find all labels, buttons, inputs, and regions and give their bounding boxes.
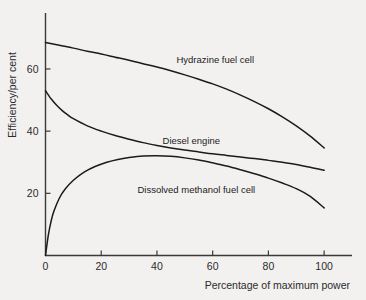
- y-axis-tick-label: 40: [27, 125, 39, 137]
- x-axis-tick-label: 0: [43, 260, 49, 272]
- y-axis-tick-label: 20: [27, 187, 39, 199]
- series-curve-3: [46, 156, 325, 256]
- y-axis-tick-label: 60: [27, 63, 39, 75]
- series-label-3: Dissolved methanol fuel cell: [137, 184, 255, 195]
- chart-svg: 020406080100204060Percentage of maximum …: [0, 0, 366, 300]
- series-label-2: Diesel engine: [163, 135, 221, 146]
- x-axis-tick-label: 60: [207, 260, 219, 272]
- x-axis-tick-label: 100: [315, 260, 333, 272]
- x-axis-tick-label: 80: [263, 260, 275, 272]
- series-label-1: Hydrazine fuel cell: [176, 54, 254, 65]
- y-axis-title: Efficiency/per cent: [6, 52, 18, 138]
- x-axis-tick-label: 20: [95, 260, 107, 272]
- x-axis-title: Percentage of maximum power: [205, 279, 351, 291]
- chart-figure: 020406080100204060Percentage of maximum …: [0, 0, 366, 300]
- x-axis-tick-label: 40: [151, 260, 163, 272]
